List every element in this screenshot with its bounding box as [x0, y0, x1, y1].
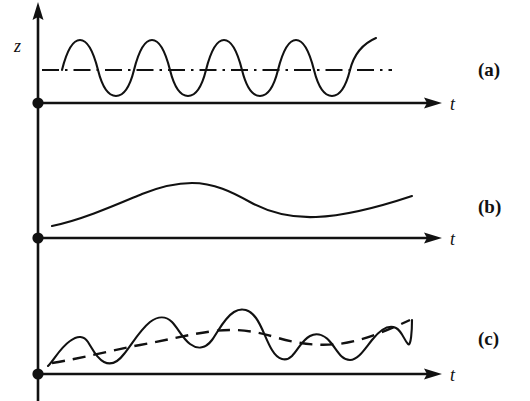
panel-c-trend-dashed-curve [52, 320, 410, 363]
panel-a-label: (a) [478, 59, 500, 81]
panel-c-horizontal-axis-label: t [450, 365, 456, 385]
panel-a-oscillation-curve [62, 38, 376, 96]
panel-c-combined-curve [48, 310, 412, 366]
diagram-canvas: z t (a) t (b) t (c) [0, 0, 530, 401]
figure-root: z t (a) t (b) t (c) [0, 0, 530, 401]
panel-c-origin-dot [32, 368, 43, 379]
panel-b: t (b) [32, 183, 501, 249]
vertical-axis-group [33, 2, 44, 401]
panel-b-trend-curve [52, 183, 412, 226]
panel-a: z t (a) [13, 36, 500, 114]
panel-c: t (c) [32, 310, 499, 385]
panel-b-horizontal-axis-label: t [450, 229, 456, 249]
panel-c-label: (c) [478, 328, 499, 350]
panel-a-origin-dot [32, 97, 43, 108]
vertical-axis-label: z [13, 36, 21, 56]
panel-b-label: (b) [478, 196, 501, 218]
panel-b-origin-dot [32, 232, 43, 243]
panel-a-horizontal-axis-label: t [450, 94, 456, 114]
